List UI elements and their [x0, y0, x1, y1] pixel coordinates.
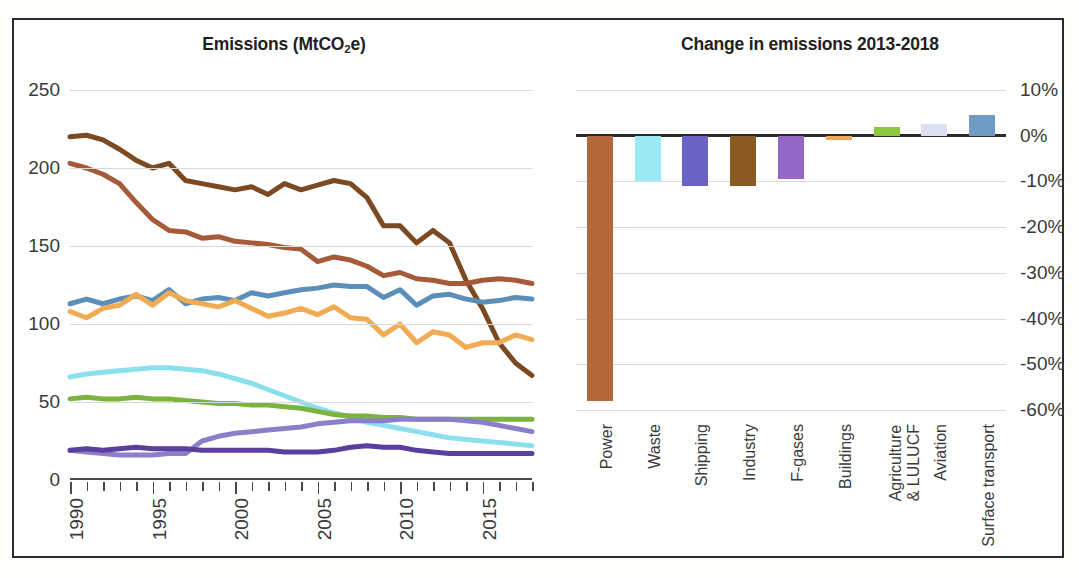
left-x-tick — [433, 482, 435, 491]
left-x-tick — [235, 482, 237, 494]
left-x-tick-label: 2015 — [479, 498, 501, 540]
left-gridline — [70, 402, 532, 403]
right-gridline — [576, 273, 1006, 274]
right-y-tick-label: 10% — [1020, 79, 1058, 101]
right-plot-area: 10%0%-10%-20%-30%-40%-50%-60%PowerWasteS… — [576, 90, 1006, 410]
right-gridline — [576, 227, 1006, 228]
bar-waste[interactable] — [635, 136, 661, 182]
left-x-tick-label: 1990 — [66, 498, 88, 540]
left-y-tick-label: 250 — [28, 79, 60, 101]
left-x-tick — [318, 482, 320, 494]
left-x-tick — [87, 482, 89, 491]
left-x-tick — [334, 482, 336, 491]
left-gridline — [70, 324, 532, 325]
right-y-tick-label: 0% — [1020, 125, 1047, 147]
left-x-tick — [186, 482, 188, 491]
left-x-tick-label: 2010 — [396, 498, 418, 540]
bar-label-line: & LULUCF — [905, 424, 923, 501]
bar-category-label: Industry — [741, 424, 759, 481]
left-x-tick — [450, 482, 452, 491]
figure-frame: Emissions (MtCO2e) 050100150200250 19901… — [12, 18, 1064, 558]
left-x-tick — [103, 482, 105, 491]
emissions-lines-svg — [70, 90, 532, 480]
bar-category-label: Buildings — [837, 424, 855, 489]
bar-aviation[interactable] — [921, 124, 947, 135]
left-x-tick — [351, 482, 353, 491]
left-x-tick — [136, 482, 138, 491]
bar-f-gases[interactable] — [778, 136, 804, 179]
left-x-tick — [219, 482, 221, 491]
bar-label-line: Agriculture — [887, 424, 905, 501]
bar-shipping[interactable] — [682, 136, 708, 186]
line-series-shipping — [70, 446, 532, 454]
left-x-tick — [466, 482, 468, 491]
left-x-tick — [532, 482, 534, 491]
left-gridline — [70, 246, 532, 247]
left-y-tick-label: 200 — [28, 157, 60, 179]
bar-industry[interactable] — [730, 136, 756, 186]
bar-buildings[interactable] — [826, 136, 852, 141]
left-x-tick — [384, 482, 386, 491]
left-y-tick-label: 150 — [28, 235, 60, 257]
right-gridline — [576, 319, 1006, 320]
emissions-line-chart-panel: Emissions (MtCO2e) 050100150200250 19901… — [14, 20, 554, 556]
right-y-tick-label: -10% — [1020, 170, 1064, 192]
left-x-axis-line — [70, 478, 532, 480]
left-x-tick — [252, 482, 254, 491]
left-y-tick-label: 100 — [28, 313, 60, 335]
bar-category-label: F-gases — [789, 424, 807, 482]
left-x-tick — [417, 482, 419, 491]
left-x-tick — [268, 482, 270, 491]
right-y-tick-label: -30% — [1020, 262, 1064, 284]
left-chart-title-main: Emissions (MtCO — [202, 34, 344, 54]
left-x-tick-label: 2000 — [231, 498, 253, 540]
left-x-axis — [70, 482, 532, 494]
left-x-tick — [70, 482, 72, 494]
bar-agriculture-lulucf[interactable] — [874, 127, 900, 136]
left-x-tick — [367, 482, 369, 491]
left-y-tick-label: 50 — [39, 391, 60, 413]
bar-power[interactable] — [587, 136, 613, 401]
right-chart-title: Change in emissions 2013-2018 — [554, 34, 1066, 55]
bar-category-label: Power — [598, 424, 616, 469]
left-x-tick-label: 2005 — [314, 498, 336, 540]
left-x-tick-label: 1995 — [149, 498, 171, 540]
bar-category-label: Agriculture& LULUCF — [887, 424, 923, 501]
left-chart-title-subscript: 2 — [344, 43, 350, 55]
left-chart-title: Emissions (MtCO2e) — [14, 34, 554, 55]
left-x-tick — [499, 482, 501, 491]
left-x-tick — [202, 482, 204, 491]
left-x-tick — [400, 482, 402, 494]
left-gridline — [70, 168, 532, 169]
left-x-tick — [483, 482, 485, 494]
bar-category-label: Shipping — [693, 424, 711, 486]
right-gridline — [576, 410, 1006, 411]
left-x-tick — [169, 482, 171, 491]
bar-category-label: Aviation — [932, 424, 950, 481]
left-x-tick — [285, 482, 287, 491]
bar-category-label: Surface transport — [980, 424, 998, 547]
left-x-tick — [120, 482, 122, 491]
figure-container: Emissions (MtCO2e) 050100150200250 19901… — [0, 0, 1079, 578]
right-y-tick-label: -40% — [1020, 308, 1064, 330]
line-series-surface-transport — [70, 163, 532, 283]
left-x-tick — [153, 482, 155, 494]
left-chart-title-tail: e) — [350, 34, 365, 54]
bar-category-label: Waste — [646, 424, 664, 469]
left-y-tick-label: 0 — [49, 469, 60, 491]
left-gridline — [70, 90, 532, 91]
right-y-tick-label: -50% — [1020, 353, 1064, 375]
right-y-tick-label: -20% — [1020, 216, 1064, 238]
line-series-industry — [70, 293, 532, 348]
line-series-power — [70, 135, 532, 375]
left-x-tick — [301, 482, 303, 491]
right-gridline — [576, 90, 1006, 91]
left-plot-area: 050100150200250 — [70, 90, 532, 480]
right-gridline — [576, 181, 1006, 182]
bar-surface-transport[interactable] — [969, 115, 995, 136]
right-y-tick-label: -60% — [1020, 399, 1064, 421]
left-x-tick — [516, 482, 518, 491]
right-gridline — [576, 364, 1006, 365]
change-bar-chart-panel: Change in emissions 2013-2018 10%0%-10%-… — [554, 20, 1066, 556]
